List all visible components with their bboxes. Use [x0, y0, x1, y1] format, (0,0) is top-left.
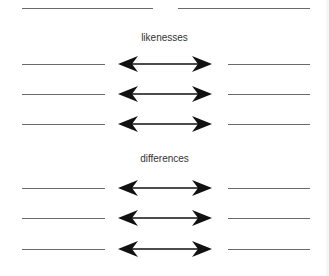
- blank-line-right: [228, 64, 310, 65]
- blank-line-left: [22, 64, 105, 65]
- section-title-likenesses: likenesses: [0, 32, 329, 43]
- blank-line-top-left: [22, 8, 153, 9]
- double-headed-arrow-icon: [118, 210, 212, 226]
- section-title-differences: differences: [0, 153, 329, 164]
- blank-line-left: [22, 218, 105, 219]
- blank-line-right: [228, 188, 310, 189]
- blank-line-right: [228, 94, 310, 95]
- blank-line-top-right: [178, 8, 310, 9]
- blank-line-left: [22, 188, 105, 189]
- blank-line-right: [228, 218, 310, 219]
- double-headed-arrow-icon: [118, 56, 212, 72]
- double-headed-arrow-icon: [118, 116, 212, 132]
- blank-line-left: [22, 249, 105, 250]
- blank-line-right: [228, 249, 310, 250]
- blank-line-left: [22, 94, 105, 95]
- double-headed-arrow-icon: [118, 86, 212, 102]
- blank-line-left: [22, 124, 105, 125]
- blank-line-right: [228, 124, 310, 125]
- double-headed-arrow-icon: [118, 241, 212, 257]
- double-headed-arrow-icon: [118, 180, 212, 196]
